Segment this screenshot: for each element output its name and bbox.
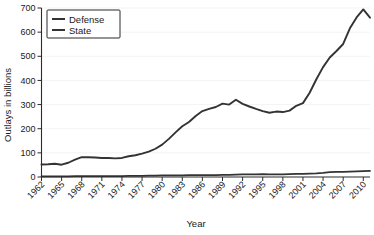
line-chart: 0100200300400500600700 19621965196819711… — [0, 0, 374, 235]
x-tick-label: 2007 — [327, 179, 348, 200]
y-tick-label: 700 — [20, 3, 35, 13]
y-tick-label: 300 — [20, 100, 35, 110]
y-axis-title: Outlays in billions — [2, 68, 13, 142]
x-tick-label: 2001 — [287, 179, 308, 200]
x-tick-label: 2010 — [347, 179, 368, 200]
x-axis-ticks: 1962196519681971197419771980198319861989… — [25, 177, 368, 201]
x-tick-label: 1971 — [86, 179, 107, 200]
x-tick-label: 1983 — [166, 179, 187, 200]
y-tick-label: 400 — [20, 76, 35, 86]
y-tick-label: 600 — [20, 27, 35, 37]
x-tick-label: 1986 — [186, 179, 207, 200]
x-axis-title: Year — [186, 218, 205, 229]
x-tick-label: 1980 — [146, 179, 167, 200]
chart-legend: Defense State — [47, 10, 120, 38]
chart-container: 0100200300400500600700 19621965196819711… — [0, 0, 374, 235]
y-tick-label: 100 — [20, 148, 35, 158]
y-tick-label: 200 — [20, 124, 35, 134]
y-tick-label: 0 — [30, 172, 35, 182]
x-tick-label: 2004 — [307, 179, 328, 200]
x-tick-label: 1974 — [106, 179, 127, 200]
x-tick-label: 1992 — [226, 179, 247, 200]
x-tick-label: 1995 — [246, 179, 267, 200]
y-axis-ticks: 0100200300400500600700 — [20, 3, 41, 182]
x-tick-label: 1998 — [267, 179, 288, 200]
legend-label-state: State — [69, 25, 91, 36]
x-tick-label: 1962 — [25, 179, 46, 200]
x-tick-label: 1977 — [126, 179, 147, 200]
x-tick-label: 1965 — [45, 179, 66, 200]
x-tick-label: 1968 — [65, 179, 86, 200]
y-tick-label: 500 — [20, 51, 35, 61]
x-tick-label: 1989 — [206, 179, 227, 200]
series-line-state — [42, 171, 371, 176]
legend-label-defense: Defense — [69, 14, 104, 25]
